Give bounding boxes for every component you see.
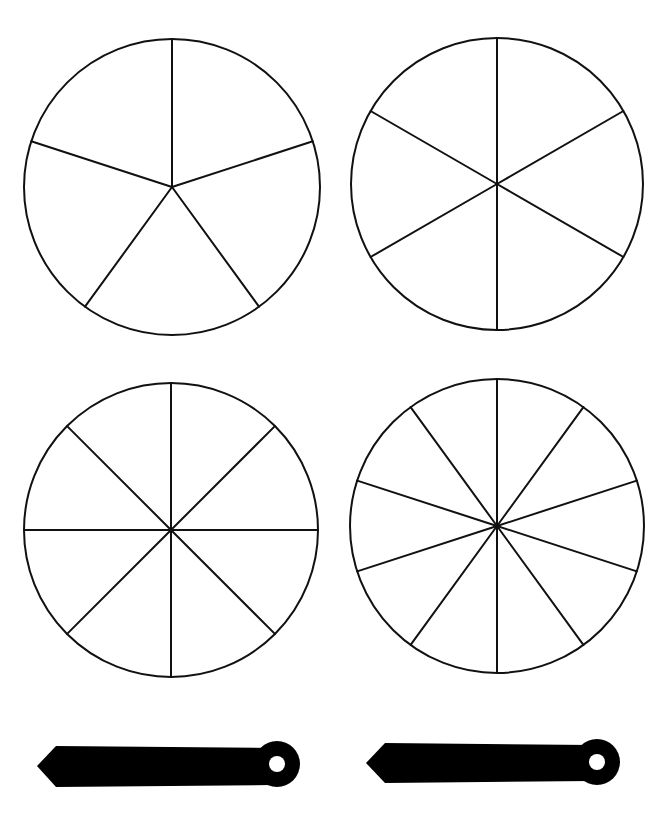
spinner-8-sections xyxy=(24,383,318,677)
spinner-pointers xyxy=(37,739,620,787)
spinner-template-sheet xyxy=(0,0,671,814)
spinner-wheels xyxy=(24,38,644,677)
pointer-left[interactable] xyxy=(37,741,300,787)
spinner-10-sections xyxy=(350,379,644,673)
pivot-hole xyxy=(589,754,605,770)
arrow-icon xyxy=(37,746,272,787)
pointer-right[interactable] xyxy=(366,739,620,785)
arrow-icon xyxy=(366,743,592,783)
pivot-hole xyxy=(269,756,285,772)
spinner-5-sections xyxy=(24,39,320,335)
spinner-6-sections xyxy=(351,38,643,330)
